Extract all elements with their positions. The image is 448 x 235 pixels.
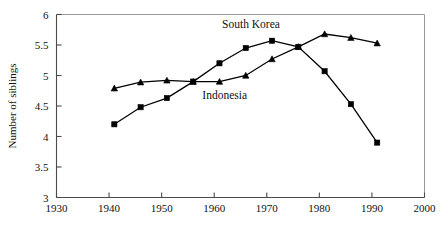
data-point-south-korea — [348, 102, 353, 107]
data-point-indonesia — [243, 72, 249, 78]
data-point-south-korea — [269, 38, 274, 43]
x-tick-label: 1950 — [151, 202, 174, 214]
x-tick-label: 1960 — [203, 202, 226, 214]
y-tick-label: 3.5 — [35, 161, 49, 173]
x-tick-label: 1990 — [361, 202, 384, 214]
data-point-south-korea — [217, 61, 222, 66]
x-tick-label: 1980 — [308, 202, 331, 214]
y-tick-label: 6 — [43, 9, 49, 21]
data-point-south-korea — [375, 140, 380, 145]
data-point-south-korea — [322, 69, 327, 74]
data-point-indonesia — [269, 56, 275, 62]
data-point-south-korea — [243, 45, 248, 50]
series-line-indonesia — [114, 34, 377, 88]
y-tick-label: 4 — [43, 131, 49, 143]
siblings-line-chart: 1930194019501960197019801990200033.544.5… — [0, 0, 448, 235]
chart-container: 1930194019501960197019801990200033.544.5… — [0, 0, 448, 235]
y-axis-title: Number of siblings — [6, 64, 18, 149]
y-tick-label: 3 — [43, 192, 49, 204]
y-tick-label: 5.5 — [35, 39, 49, 51]
series-label-indonesia: Indonesia — [202, 89, 247, 101]
series-label-south-korea: South Korea — [222, 18, 280, 30]
data-point-south-korea — [112, 122, 117, 127]
x-tick-label: 2000 — [414, 202, 437, 214]
x-tick-label: 1930 — [46, 202, 69, 214]
x-tick-label: 1940 — [98, 202, 121, 214]
y-tick-label: 4.5 — [35, 100, 49, 112]
x-tick-label: 1970 — [256, 202, 279, 214]
y-tick-label: 5 — [43, 70, 49, 82]
data-point-south-korea — [164, 95, 169, 100]
data-point-south-korea — [138, 105, 143, 110]
